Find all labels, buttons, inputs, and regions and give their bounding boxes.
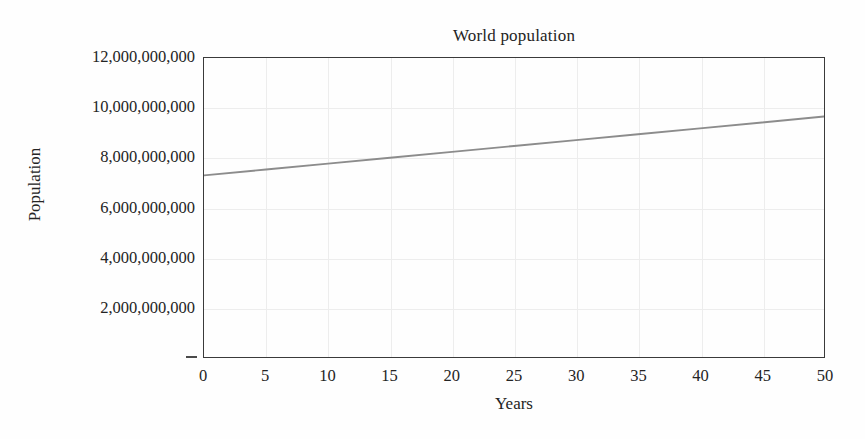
x-axis-tick-label: 30 [546, 367, 606, 385]
x-axis-tick-label: 50 [795, 367, 855, 385]
series-line-world-population [204, 58, 824, 357]
y-axis-tick-label: 8,000,000,000 [19, 148, 195, 166]
series-polyline [204, 117, 824, 176]
y-axis-tick-label: 4,000,000,000 [19, 249, 195, 267]
y-axis-tick-label: 12,000,000,000 [19, 48, 195, 66]
x-axis-tick-label: 20 [422, 367, 482, 385]
y-axis-tick-label: 6,000,000,000 [19, 199, 195, 217]
x-axis-tick-label: 15 [360, 367, 420, 385]
x-axis-tick-label: 45 [733, 367, 793, 385]
x-axis-tick-label: 5 [235, 367, 295, 385]
x-axis-tick-label: 40 [671, 367, 731, 385]
x-axis-tick-label: 10 [297, 367, 357, 385]
plot-area [203, 57, 825, 358]
y-axis-zero-tick-icon [186, 356, 197, 358]
x-axis-tick-label: 25 [484, 367, 544, 385]
x-axis-title: Years [203, 394, 825, 414]
x-axis-tick-label: 35 [608, 367, 668, 385]
chart-figure: World population Population 2,000,000,00… [0, 0, 865, 439]
chart-title: World population [203, 26, 825, 46]
y-axis-tick-label: 2,000,000,000 [19, 299, 195, 317]
x-axis-tick-label: 0 [173, 367, 233, 385]
y-axis-tick-label: 10,000,000,000 [19, 98, 195, 116]
